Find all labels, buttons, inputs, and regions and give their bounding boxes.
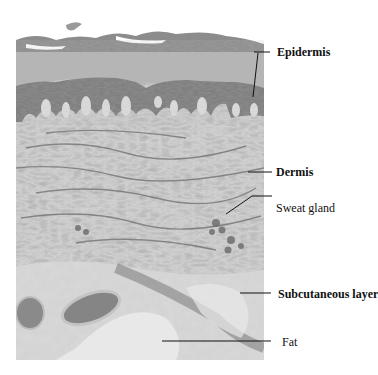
label-subcutaneous-layer: Subcutaneous layer xyxy=(278,287,378,301)
label-fat: Fat xyxy=(282,335,297,349)
skin-micrograph xyxy=(16,18,264,360)
label-sweat-gland: Sweat gland xyxy=(276,201,335,215)
label-dermis: Dermis xyxy=(276,165,313,179)
label-epidermis: Epidermis xyxy=(277,45,330,59)
